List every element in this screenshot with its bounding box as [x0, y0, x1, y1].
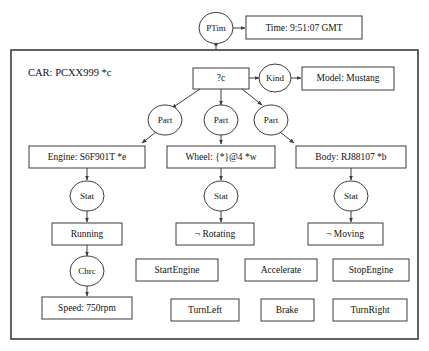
actions-row-1: StartEngine Accelerate StopEngine	[136, 259, 409, 281]
component-boxes: Engine: S6F901T *e Wheel: {*}@4 *w Body:…	[29, 146, 406, 168]
ptim-node-label: PTim	[206, 23, 226, 33]
kind-node-label: Kind	[266, 73, 285, 83]
edge-variable-to-part-engine	[172, 89, 200, 108]
status-boxes: Running ¬ Rotating ¬ Moving	[52, 223, 383, 245]
part-nodes: Part Part Part	[148, 105, 288, 135]
edge-part-to-engine	[142, 132, 156, 143]
component-to-stat-edges	[87, 168, 351, 180]
part-node-engine-label: Part	[158, 115, 173, 125]
part-node-body-label: Part	[264, 115, 279, 125]
edge-part-to-body	[280, 132, 294, 143]
action-accelerate-label: Accelerate	[261, 265, 302, 275]
chrc-node-label: Chrc	[78, 266, 96, 276]
engine-box-label: Engine: S6F901T *e	[48, 152, 126, 162]
characteristic-group: Chrc Speed: 750rpm	[42, 245, 132, 319]
model-box-label: Model: Mustang	[316, 73, 379, 83]
stat-node-engine-label: Stat	[80, 191, 95, 201]
status-box-running-label: Running	[71, 229, 104, 239]
stat-nodes: Stat Stat Stat	[70, 181, 368, 211]
status-box-moving-label: ¬ Moving	[326, 229, 364, 239]
stat-to-status-edges	[87, 211, 351, 222]
edge-variable-to-part-body	[242, 89, 262, 105]
action-turn-left-label: TurnLeft	[188, 305, 222, 315]
variable-box-label: ?c	[217, 73, 225, 83]
speed-box-label: Speed: 750rpm	[58, 303, 116, 313]
part-node-wheel-label: Part	[214, 115, 229, 125]
stat-node-body-label: Stat	[344, 191, 359, 201]
actions-row-2: TurnLeft Brake TurnRight	[171, 299, 407, 321]
status-box-rotating-label: ¬ Rotating	[195, 229, 236, 239]
stat-node-wheel-label: Stat	[214, 191, 229, 201]
action-start-engine-label: StartEngine	[155, 265, 200, 275]
clock-group: PTim Time: 9:51:07 GMT	[199, 13, 362, 51]
frame-title: CAR: PCXX999 *c	[28, 67, 112, 78]
action-stop-engine-label: StopEngine	[349, 265, 393, 275]
action-turn-right-label: TurnRight	[350, 305, 390, 315]
root-group: ?c Kind Model: Mustang	[193, 64, 394, 92]
body-box-label: Body: RJ88107 *b	[315, 152, 387, 162]
time-box-label: Time: 9:51:07 GMT	[265, 23, 342, 33]
action-brake-label: Brake	[276, 305, 299, 315]
car-knowledge-diagram: PTim Time: 9:51:07 GMT CAR: PCXX999 *c ?…	[0, 0, 429, 351]
wheel-box-label: Wheel: {*}@4 *w	[185, 152, 256, 162]
